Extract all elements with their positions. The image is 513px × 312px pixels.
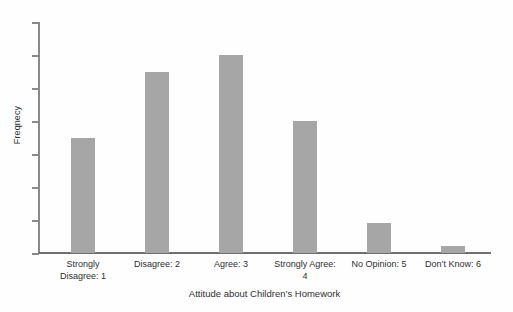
chart-screenshot: StronglyDisagree: 1Disagree: 2Agree: 3St… [0, 0, 513, 312]
bar-chart-plot-area: StronglyDisagree: 1Disagree: 2Agree: 3St… [0, 0, 513, 312]
x-axis-category-label-line: 4 [259, 271, 351, 283]
y-axis-tick [32, 88, 39, 90]
y-axis-tick [32, 154, 39, 156]
bar [293, 121, 317, 253]
x-axis-title: Attitude about Children’s Homework [38, 288, 491, 299]
y-axis-tick [32, 55, 39, 57]
bar [367, 223, 391, 253]
x-axis-category-label-line: Don’t Know: 6 [407, 259, 499, 271]
x-axis-category-label: Don’t Know: 6 [407, 259, 499, 271]
bar [71, 138, 95, 254]
y-axis-tick [32, 187, 39, 189]
y-axis-tick [32, 253, 39, 255]
x-axis-line [38, 252, 491, 254]
x-axis-category-label-line: Disagree: 1 [37, 271, 129, 283]
bar [441, 246, 465, 253]
y-axis-title: Freqnecy [12, 95, 22, 155]
bar [145, 72, 169, 254]
bar [219, 55, 243, 253]
y-axis-tick [32, 22, 39, 24]
y-axis-tick [32, 220, 39, 222]
y-axis-tick [32, 121, 39, 123]
